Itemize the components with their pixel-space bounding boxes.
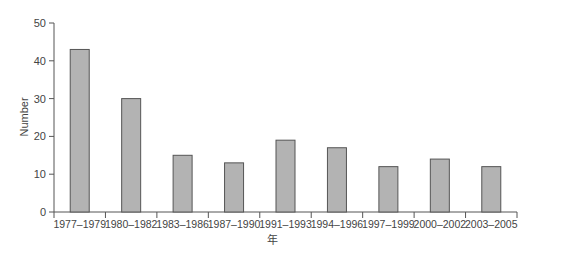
bar bbox=[173, 155, 192, 212]
bar bbox=[482, 167, 501, 212]
bar bbox=[276, 140, 295, 212]
bar bbox=[327, 148, 346, 212]
y-tick-label: 10 bbox=[34, 168, 46, 180]
y-tick-label: 30 bbox=[34, 93, 46, 105]
y-tick-label: 50 bbox=[34, 17, 46, 29]
y-tick-label: 40 bbox=[34, 55, 46, 67]
x-axis: 1977–19791980–19821983–19861987–19901991… bbox=[53, 212, 517, 230]
bar bbox=[122, 99, 141, 212]
x-tick-label: 1997–1999 bbox=[362, 218, 415, 230]
x-tick-label: 1983–1986 bbox=[156, 218, 209, 230]
x-tick-label: 1977–1979 bbox=[53, 218, 106, 230]
x-tick-label: 1991–1993 bbox=[259, 218, 312, 230]
x-tick-label: 1987–1990 bbox=[208, 218, 261, 230]
bar bbox=[379, 167, 398, 212]
y-axis-label: Number bbox=[18, 97, 30, 136]
y-tick-label: 0 bbox=[40, 206, 46, 218]
x-tick-label: 1980–1982 bbox=[105, 218, 158, 230]
x-axis-label: 年 bbox=[267, 233, 278, 246]
bar bbox=[70, 49, 89, 212]
chart-canvas: 01020304050 1977–19791980–19821983–19861… bbox=[0, 0, 561, 257]
bar bbox=[225, 163, 244, 212]
bar-chart: 01020304050 1977–19791980–19821983–19861… bbox=[0, 0, 561, 257]
bar bbox=[430, 159, 449, 212]
x-tick-label: 2003–2005 bbox=[465, 218, 518, 230]
y-axis: 01020304050 bbox=[34, 17, 54, 218]
y-tick-label: 20 bbox=[34, 130, 46, 142]
x-tick-label: 2000–2002 bbox=[414, 218, 467, 230]
bars bbox=[70, 49, 501, 212]
x-tick-label: 1994–1996 bbox=[311, 218, 364, 230]
